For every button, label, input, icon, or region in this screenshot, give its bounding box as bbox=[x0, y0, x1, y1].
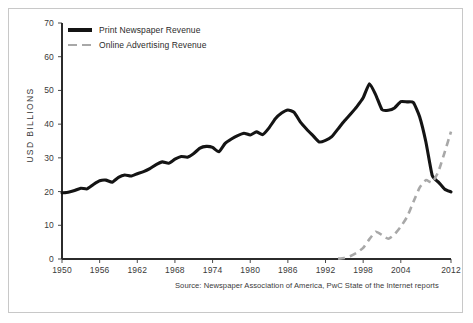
y-tick-label: 60 bbox=[44, 52, 54, 62]
legend-item-print-newspaper-revenue: Print Newspaper Revenue bbox=[68, 22, 278, 37]
x-tick-label: 1998 bbox=[353, 265, 373, 275]
x-tick-label: 1968 bbox=[165, 265, 185, 275]
series-line-online-advertising-revenue bbox=[338, 132, 451, 259]
chart-figure: 010203040506070 195019561962196819741980… bbox=[0, 0, 473, 323]
chart-legend: Print Newspaper Revenue Online Advertisi… bbox=[68, 22, 278, 52]
y-tick-label: 30 bbox=[44, 153, 54, 163]
y-tick-label: 0 bbox=[49, 254, 54, 264]
legend-label-print-newspaper-revenue: Print Newspaper Revenue bbox=[99, 25, 201, 35]
y-axis-ticks: 010203040506070 bbox=[44, 18, 62, 264]
y-tick-label: 70 bbox=[44, 18, 54, 28]
legend-dashed-line-icon bbox=[68, 39, 92, 50]
x-axis-ticks: 1950195619621968197419801986199219982004… bbox=[52, 259, 461, 275]
x-tick-label: 2004 bbox=[391, 265, 411, 275]
x-tick-label: 2012 bbox=[441, 265, 461, 275]
y-tick-label: 40 bbox=[44, 119, 54, 129]
y-tick-label: 50 bbox=[44, 85, 54, 95]
x-tick-label: 1950 bbox=[52, 265, 72, 275]
x-tick-label: 1956 bbox=[90, 265, 110, 275]
legend-solid-line-icon bbox=[68, 24, 92, 35]
x-tick-label: 1974 bbox=[203, 265, 223, 275]
x-tick-label: 1986 bbox=[278, 265, 298, 275]
y-axis-title: USD BILLIONS bbox=[25, 65, 35, 185]
source-note: Source: Newspaper Association of America… bbox=[175, 281, 439, 290]
y-tick-label: 20 bbox=[44, 187, 54, 197]
x-tick-label: 1980 bbox=[240, 265, 260, 275]
legend-label-online-advertising-revenue: Online Advertising Revenue bbox=[99, 40, 207, 50]
legend-item-online-advertising-revenue: Online Advertising Revenue bbox=[68, 37, 278, 52]
x-tick-label: 1992 bbox=[316, 265, 336, 275]
x-tick-label: 1962 bbox=[127, 265, 147, 275]
y-tick-label: 10 bbox=[44, 220, 54, 230]
series-line-print-newspaper-revenue bbox=[62, 84, 451, 193]
